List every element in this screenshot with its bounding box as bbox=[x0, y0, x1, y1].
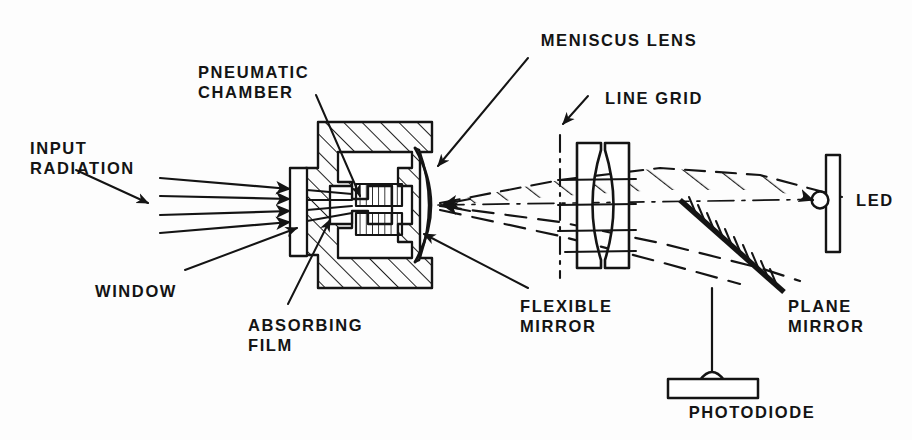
detector-schematic-svg bbox=[0, 0, 912, 440]
label-input-radiation: INPUT RADIATION bbox=[30, 138, 135, 179]
label-plane-mirror: PLANE MIRROR bbox=[788, 296, 865, 337]
label-absorbing-film: ABSORBING FILM bbox=[248, 315, 363, 356]
label-meniscus-lens: MENISCUS LENS bbox=[541, 30, 697, 50]
photodiode bbox=[668, 288, 758, 398]
label-window: WINDOW bbox=[95, 281, 177, 301]
window bbox=[290, 168, 307, 256]
label-led: LED bbox=[856, 190, 894, 210]
label-photodiode: PHOTODIODE bbox=[689, 402, 816, 422]
label-line-grid: LINE GRID bbox=[605, 88, 703, 108]
led bbox=[804, 155, 840, 252]
label-pneumatic-chamber: PNEUMATIC CHAMBER bbox=[198, 62, 309, 103]
lens-pair bbox=[558, 143, 636, 268]
diagram-canvas: MENISCUS LENS PNEUMATIC CHAMBER LINE GRI… bbox=[0, 0, 912, 440]
beam-envelope bbox=[438, 168, 842, 284]
label-flexible-mirror: FLEXIBLE MIRROR bbox=[520, 296, 613, 337]
plane-mirror bbox=[680, 197, 784, 292]
